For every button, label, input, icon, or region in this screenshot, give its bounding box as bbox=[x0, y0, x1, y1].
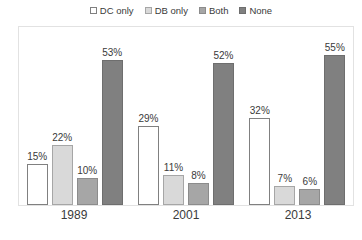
bar-chart: DC onlyDB onlyBothNone 15%22%10%53%29%11… bbox=[0, 0, 362, 240]
bar[interactable] bbox=[27, 164, 48, 205]
bar-value-label: 7% bbox=[278, 174, 292, 184]
bar-value-label: 53% bbox=[102, 48, 122, 58]
legend-label: None bbox=[249, 6, 272, 16]
legend-label: Both bbox=[209, 6, 229, 16]
bar[interactable] bbox=[77, 178, 98, 205]
bar-slot: 29% bbox=[138, 27, 159, 205]
bar[interactable] bbox=[138, 126, 159, 205]
legend-swatch-icon bbox=[90, 7, 97, 14]
bar-value-label: 15% bbox=[27, 152, 47, 162]
bar-value-label: 55% bbox=[325, 43, 345, 53]
bar[interactable] bbox=[324, 55, 345, 205]
category-label: 2013 bbox=[243, 208, 353, 222]
bar-value-label: 32% bbox=[250, 106, 270, 116]
bar-slot: 52% bbox=[213, 27, 234, 205]
bar-value-label: 10% bbox=[77, 166, 97, 176]
legend-item[interactable]: DC only bbox=[90, 6, 134, 16]
legend-swatch-icon bbox=[239, 7, 246, 14]
bar[interactable] bbox=[299, 189, 320, 205]
bar-slot: 22% bbox=[52, 27, 73, 205]
bar-slot: 15% bbox=[27, 27, 48, 205]
category-axis: 198920012013 bbox=[18, 208, 354, 222]
plot-area: 15%22%10%53%29%11%8%52%32%7%6%55% bbox=[18, 26, 354, 206]
bar[interactable] bbox=[274, 186, 295, 205]
bar-slot: 10% bbox=[77, 27, 98, 205]
bar[interactable] bbox=[188, 183, 209, 205]
bar-slot: 53% bbox=[102, 27, 123, 205]
bar[interactable] bbox=[102, 60, 123, 205]
bar-slot: 6% bbox=[299, 27, 320, 205]
legend-swatch-icon bbox=[199, 7, 206, 14]
legend-item[interactable]: None bbox=[239, 6, 272, 16]
bar-value-label: 6% bbox=[303, 177, 317, 187]
bar-slot: 7% bbox=[274, 27, 295, 205]
bar-group: 32%7%6%55% bbox=[249, 27, 345, 205]
legend-label: DC only bbox=[100, 6, 134, 16]
legend-item[interactable]: DB only bbox=[145, 6, 188, 16]
bar-slot: 11% bbox=[163, 27, 184, 205]
bar-slot: 32% bbox=[249, 27, 270, 205]
bar-value-label: 11% bbox=[164, 163, 183, 173]
category-label: 1989 bbox=[19, 208, 129, 222]
bar-value-label: 29% bbox=[138, 114, 158, 124]
bar-value-label: 8% bbox=[191, 171, 205, 181]
bar-value-label: 52% bbox=[213, 51, 233, 61]
bar-group: 29%11%8%52% bbox=[138, 27, 234, 205]
legend-swatch-icon bbox=[145, 7, 152, 14]
bar-group: 15%22%10%53% bbox=[27, 27, 123, 205]
bar-groups: 15%22%10%53%29%11%8%52%32%7%6%55% bbox=[19, 27, 353, 205]
bar-slot: 8% bbox=[188, 27, 209, 205]
bar[interactable] bbox=[213, 63, 234, 205]
bar[interactable] bbox=[249, 118, 270, 205]
bar[interactable] bbox=[52, 145, 73, 205]
legend-label: DB only bbox=[155, 6, 188, 16]
category-label: 2001 bbox=[131, 208, 241, 222]
chart-legend: DC onlyDB onlyBothNone bbox=[0, 6, 362, 16]
bar-value-label: 22% bbox=[52, 133, 72, 143]
bar-slot: 55% bbox=[324, 27, 345, 205]
bar[interactable] bbox=[163, 175, 184, 205]
legend-item[interactable]: Both bbox=[199, 6, 229, 16]
